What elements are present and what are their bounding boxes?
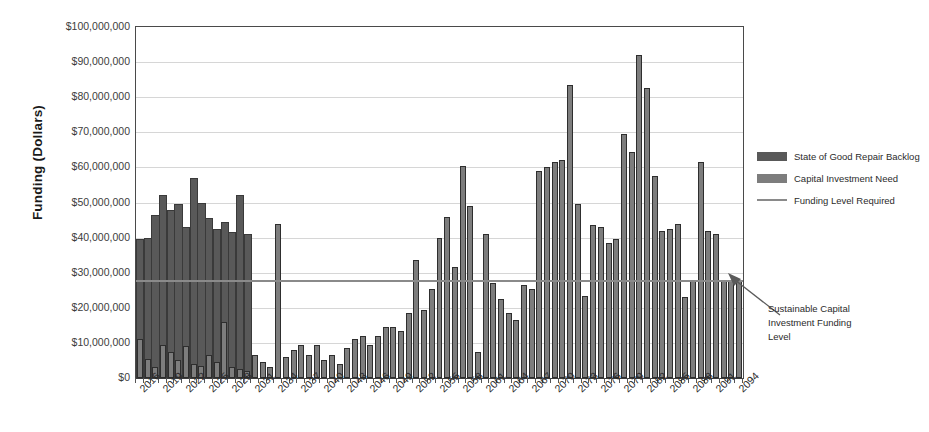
legend-color-swatch	[757, 152, 787, 161]
x-axis-tick-label: 2091	[713, 369, 738, 394]
annotation-line: Investment Funding	[768, 316, 888, 330]
legend-label: Capital Investment Need	[794, 173, 898, 184]
legend-item[interactable]: Capital Investment Need	[757, 167, 929, 189]
x-axis-tick-label: 2061	[483, 369, 508, 394]
x-axis-tick-label: 2064	[506, 369, 531, 394]
x-axis-tick-label: 2088	[690, 369, 715, 394]
x-axis-tick-label: 2073	[575, 369, 600, 394]
x-axis-tick-label: 2025	[206, 369, 231, 394]
x-axis-tick-label: 2028	[229, 369, 254, 394]
x-axis-tick-label: 2034	[275, 369, 300, 394]
x-axis-tick-label: 2055	[437, 369, 462, 394]
x-axis-tick-label: 2016	[137, 369, 162, 394]
funding-bar-chart: Funding (Dollars) $100,000,000$90,000,00…	[0, 0, 929, 432]
x-axis-tick-label: 2079	[621, 369, 646, 394]
x-axis-tick-label: 2067	[529, 369, 554, 394]
annotation-line: Level	[768, 330, 888, 344]
x-axis-tick-label: 2076	[598, 369, 623, 394]
x-axis-tick-label: 2085	[667, 369, 692, 394]
x-axis-tick-label: 2043	[344, 369, 369, 394]
x-axis-tick-label: 2019	[160, 369, 185, 394]
legend-line-swatch	[757, 199, 787, 201]
legend-label: State of Good Repair Backlog	[794, 151, 920, 162]
x-axis-tick-label: 2022	[183, 369, 208, 394]
annotation-line: Sustainable Capital	[768, 302, 888, 316]
x-axis-tick-label: 2031	[252, 369, 277, 394]
sustainable-funding-annotation: Sustainable CapitalInvestment FundingLev…	[768, 302, 888, 344]
x-axis-tick-label: 2046	[367, 369, 392, 394]
x-axis-tick-label: 2052	[413, 369, 438, 394]
x-axis-tick-labels: 2016201920222025202820312034203720402043…	[0, 0, 929, 432]
chart-legend: State of Good Repair BacklogCapital Inve…	[757, 145, 929, 211]
legend-item[interactable]: Funding Level Required	[757, 189, 929, 211]
legend-item[interactable]: State of Good Repair Backlog	[757, 145, 929, 167]
x-axis-tick-label: 2049	[390, 369, 415, 394]
x-axis-tick-label: 2094	[736, 369, 761, 394]
x-axis-tick-label: 2058	[460, 369, 485, 394]
legend-color-swatch	[757, 174, 787, 183]
x-axis-tick-label: 2040	[321, 369, 346, 394]
x-axis-tick-label: 2070	[552, 369, 577, 394]
x-axis-tick-label: 2082	[644, 369, 669, 394]
x-axis-tick-label: 2037	[298, 369, 323, 394]
legend-label: Funding Level Required	[794, 195, 895, 206]
